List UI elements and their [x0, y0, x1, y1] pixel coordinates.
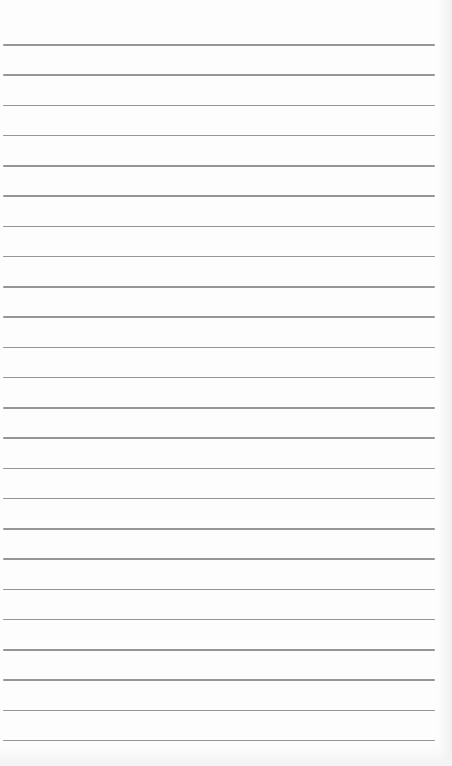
ruled-line	[3, 74, 435, 76]
ruled-line	[3, 589, 435, 591]
paper-right-edge-shade	[438, 0, 452, 766]
ruled-line	[3, 195, 435, 197]
ruled-line	[3, 286, 435, 288]
ruled-line	[3, 44, 435, 46]
ruled-line	[3, 468, 435, 470]
ruled-line	[3, 619, 435, 621]
ruled-line	[3, 226, 435, 228]
ruled-line	[3, 347, 435, 349]
ruled-line	[3, 558, 435, 560]
ruled-line	[3, 649, 435, 651]
ruled-line	[3, 679, 435, 681]
lined-paper	[0, 0, 452, 766]
ruled-line	[3, 316, 435, 318]
ruled-line	[3, 528, 435, 530]
ruled-line	[3, 740, 435, 742]
ruled-line	[3, 135, 435, 137]
ruled-line	[3, 498, 435, 500]
ruled-line	[3, 256, 435, 258]
ruled-line	[3, 407, 435, 409]
ruled-line	[3, 710, 435, 712]
ruled-line	[3, 437, 435, 439]
ruled-line	[3, 105, 435, 107]
ruled-line	[3, 165, 435, 167]
paper-bottom-edge-shade	[0, 746, 452, 766]
ruled-line	[3, 377, 435, 379]
